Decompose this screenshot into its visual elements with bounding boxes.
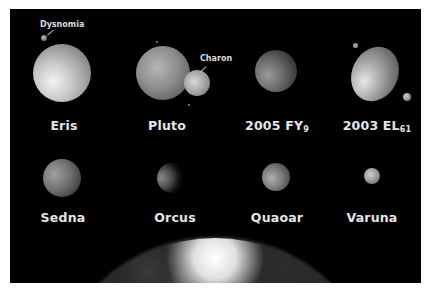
- eris-disc: [33, 44, 91, 102]
- el61-moon-large: [403, 93, 411, 101]
- label-varuna: Varuna: [346, 210, 397, 225]
- quaoar-disc: [262, 163, 290, 191]
- pluto-disc: [136, 46, 190, 100]
- star: [156, 41, 158, 43]
- varuna-disc: [364, 168, 380, 184]
- space-panel: Dysnomia Charon Eris Pluto 2005 FY9 2003…: [10, 9, 421, 283]
- label-eris: Eris: [50, 118, 77, 133]
- charon-label: Charon: [200, 54, 232, 63]
- label-quaoar: Quaoar: [251, 210, 303, 225]
- dysnomia-disc: [41, 35, 47, 41]
- earth-disc: [50, 238, 380, 283]
- label-el61: 2003 EL61: [343, 118, 412, 134]
- label-fy9: 2005 FY9: [245, 118, 309, 134]
- el61-disc: [342, 39, 407, 109]
- star: [188, 104, 190, 106]
- orcus-disc: [157, 163, 187, 193]
- sedna-disc: [43, 159, 81, 197]
- charon-disc: [184, 70, 210, 96]
- fy9-disc: [255, 50, 297, 92]
- dysnomia-pointer: [47, 30, 54, 36]
- label-orcus: Orcus: [154, 210, 196, 225]
- el61-moon-small: [353, 43, 358, 48]
- label-pluto: Pluto: [148, 118, 186, 133]
- label-sedna: Sedna: [41, 210, 86, 225]
- dysnomia-label: Dysnomia: [40, 20, 84, 29]
